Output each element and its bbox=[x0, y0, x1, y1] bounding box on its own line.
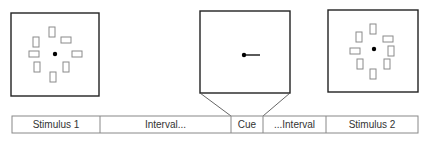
fixation-dot-icon bbox=[242, 53, 246, 57]
panel-frame bbox=[200, 11, 290, 93]
funnel-right-line bbox=[263, 93, 290, 116]
panel-cue bbox=[200, 11, 290, 93]
timeline-segment-label: Cue bbox=[238, 119, 257, 130]
fixation-dot-icon bbox=[372, 47, 376, 51]
panel-frame bbox=[328, 10, 418, 92]
funnel-left-line bbox=[200, 93, 231, 116]
cue-expansion-lines bbox=[200, 93, 290, 116]
timeline-segment-label: Stimulus 1 bbox=[33, 119, 80, 130]
timeline-segment-label: Interval... bbox=[145, 119, 186, 130]
trial-sequence-diagram: Stimulus 1Interval...Cue...IntervalStimu… bbox=[0, 0, 428, 141]
fixation-dot-icon bbox=[53, 52, 57, 56]
stimulus-panels bbox=[11, 10, 418, 96]
timeline-segment-label: ...Interval bbox=[274, 119, 315, 130]
panel-stimulus-2 bbox=[328, 10, 418, 92]
panel-stimulus-1 bbox=[11, 13, 99, 96]
timeline-segment-label: Stimulus 2 bbox=[349, 119, 396, 130]
trial-timeline: Stimulus 1Interval...Cue...IntervalStimu… bbox=[12, 116, 418, 133]
